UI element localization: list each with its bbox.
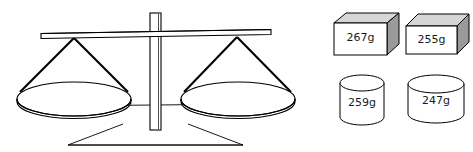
weight-label-cylinder-2: 247g (408, 95, 464, 106)
diagram-canvas: 267g 255g 259g 247g (0, 0, 473, 152)
weight-cylinder-2 (0, 0, 473, 152)
